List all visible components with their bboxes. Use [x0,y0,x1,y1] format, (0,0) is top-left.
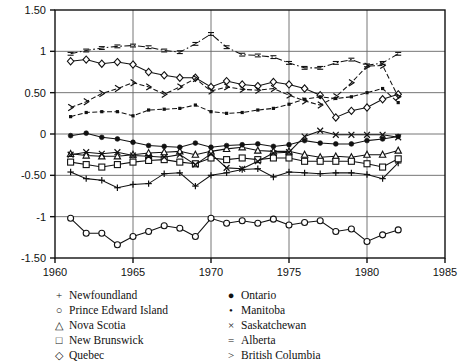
legend-item-ontario: ●Ontario [224,288,321,302]
x-tick-label: 1970 [199,266,223,278]
legend-item-british-columbia: >British Columbia [224,348,321,362]
data-point-marker [240,142,245,147]
data-point-marker [225,112,228,115]
legend-label: British Columbia [238,348,321,362]
legend-marker-icon: ● [224,288,238,302]
data-point-marker [177,84,182,90]
data-point-marker [99,135,104,140]
data-point-marker [161,170,167,176]
y-tick-label: 1 [40,45,46,57]
legend-label: Manitoba [238,303,285,317]
data-point-marker [116,110,119,113]
legend-label: Newfoundland [66,288,137,302]
legend-marker-icon: × [224,318,238,332]
legend-item-alberta: =Alberta [224,333,321,347]
data-point-marker [302,158,308,164]
legend-column-right: ●Ontario•Manitoba×Saskatchewan=Alberta>B… [224,288,321,362]
data-point-marker [239,155,245,161]
data-point-marker [99,177,105,183]
data-point-marker [286,155,292,161]
data-point-marker [83,56,89,63]
data-point-marker [381,87,384,90]
legend-label: Quebec [66,348,104,362]
data-point-marker [364,104,370,111]
legend-marker-icon: ◇ [52,348,66,362]
data-point-marker [177,225,183,231]
data-point-marker [99,230,105,236]
legend-item-new-brunswick: □New Brunswick [52,333,202,347]
series-british-columbia [68,62,401,111]
y-tick-label: -0.50 [21,169,46,181]
y-tick-label: 0 [40,128,46,140]
series-prince-edward-island [68,215,402,247]
data-point-marker [99,164,105,170]
data-point-marker [146,229,152,235]
legend-marker-icon: = [224,333,238,347]
data-point-marker [100,110,103,113]
x-tick-label: 1975 [277,266,301,278]
legend-item-nova-scotia: △Nova Scotia [52,318,202,332]
data-point-marker [147,108,150,111]
data-point-marker [69,115,72,118]
data-point-marker [397,101,400,104]
data-point-marker [68,159,74,165]
data-point-marker [380,232,386,238]
legend-marker-icon: □ [52,333,66,347]
data-point-marker [146,143,151,148]
data-point-marker [302,219,308,225]
legend-item-newfoundland: +Newfoundland [52,288,202,302]
y-axis: -1.50-1-0.5000.5011.50 [21,4,55,264]
data-point-marker [255,220,261,226]
legend-label: Ontario [238,288,276,302]
data-point-marker [350,95,353,98]
data-point-marker [208,215,214,221]
data-point-marker [68,215,74,221]
data-point-marker [287,142,292,147]
data-point-marker [319,95,322,98]
legend-label: Alberta [238,333,275,347]
y-tick-label: -1 [36,211,46,223]
data-point-marker [348,226,354,232]
data-point-marker [85,111,88,114]
data-point-marker [178,107,181,110]
data-point-marker [270,78,276,85]
data-point-marker [68,133,73,138]
data-point-marker [67,169,73,175]
data-point-marker [192,234,198,240]
series-line [71,65,399,107]
data-point-marker [114,185,120,191]
data-point-marker [241,111,244,114]
data-point-marker [379,96,385,103]
data-point-marker [380,164,386,170]
legend-item-prince-edward-island: ○Prince Edward Island [52,303,202,317]
data-point-marker [145,180,151,186]
line-chart-canvas: -1.50-1-0.5000.5011.50196019651970197519… [0,0,462,284]
data-point-marker [224,143,229,148]
data-point-marker [131,140,136,145]
legend-marker-icon: • [224,303,238,317]
data-point-marker [177,159,183,165]
data-point-marker [208,172,214,178]
data-point-marker [365,138,370,143]
data-point-marker [255,54,261,57]
x-tick-label: 1960 [43,266,67,278]
legend-marker-icon: △ [52,318,66,332]
data-point-marker [130,181,136,187]
x-tick-label: 1985 [433,266,457,278]
data-point-marker [287,103,290,106]
data-point-marker [364,161,370,167]
data-point-marker [286,169,292,175]
data-point-marker [83,175,89,181]
data-point-marker [99,60,105,67]
chart-legend: +Newfoundland○Prince Edward Island△Nova … [52,288,452,362]
data-point-marker [255,166,261,172]
data-point-marker [349,142,354,147]
data-point-marker [115,137,120,142]
data-point-marker [224,220,230,226]
data-point-marker [114,58,120,65]
data-point-marker [270,174,276,180]
legend-marker-icon: + [52,288,66,302]
legend-label: Prince Edward Island [66,303,168,317]
x-tick-label: 1980 [355,266,379,278]
x-axis: 196019651970197519801985 [43,258,457,278]
